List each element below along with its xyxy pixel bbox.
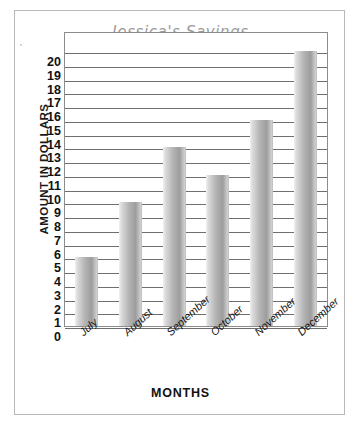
y-tick-label: 12: [37, 166, 61, 179]
y-tick-label: 10: [37, 193, 61, 206]
plot-inner: [65, 53, 327, 326]
bar: [294, 51, 317, 326]
y-tick-label: 14: [37, 138, 61, 151]
bar: [75, 257, 98, 326]
y-tick-label: 7: [37, 235, 61, 248]
y-tick-label: 1: [37, 317, 61, 330]
y-tick-label: 13: [37, 152, 61, 165]
scan-speck: [20, 44, 22, 46]
y-tick-label: 4: [37, 276, 61, 289]
bar: [119, 202, 142, 326]
y-tick-label: 9: [37, 207, 61, 220]
x-axis-title: MONTHS: [15, 386, 346, 400]
bar: [163, 147, 186, 326]
y-tick-label: 11: [37, 180, 61, 193]
bar: [250, 120, 273, 326]
y-tick-label: 3: [37, 290, 61, 303]
y-axis-tick-labels: 20191817161514131211109876543210: [37, 42, 61, 327]
y-tick-label: 19: [37, 70, 61, 83]
y-tick-label: 16: [37, 111, 61, 124]
bars-group: [65, 53, 327, 326]
plot-area: [64, 32, 328, 327]
y-tick-label: 17: [37, 97, 61, 110]
y-tick-label: 5: [37, 262, 61, 275]
y-tick-label: 15: [37, 125, 61, 138]
x-axis-tick-labels: JulyAugustSeptemberOctoberNovemberDecemb…: [64, 329, 328, 389]
chart-frame: Jessica's Savings AMOUNT IN DOLLARS 2019…: [14, 10, 345, 415]
y-tick-label: 0: [37, 331, 61, 344]
y-tick-label: 2: [37, 303, 61, 316]
y-tick-label: 8: [37, 221, 61, 234]
y-tick-label: 18: [37, 83, 61, 96]
y-tick-label: 6: [37, 248, 61, 261]
y-tick-label: 20: [37, 56, 61, 69]
